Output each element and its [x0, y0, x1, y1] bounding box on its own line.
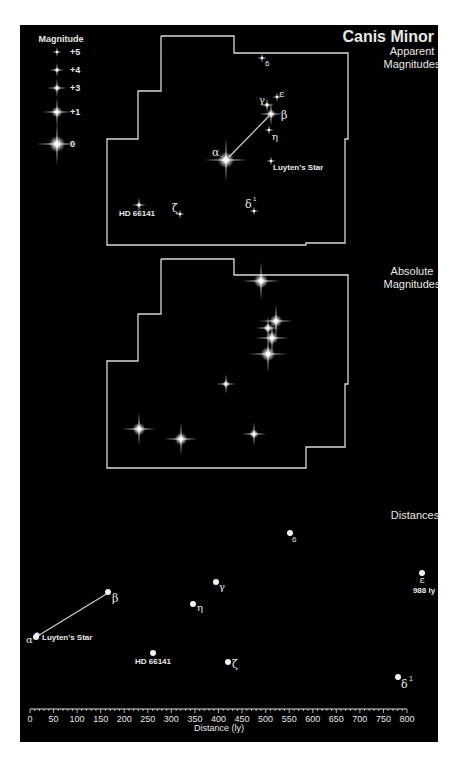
section-apparent-line1: Apparent — [390, 45, 435, 57]
axis-tick-label: 700 — [352, 714, 367, 724]
dist-label-alpha: α — [26, 634, 33, 645]
section-absolute-line2: Magnitudes — [384, 278, 441, 290]
label-luyten: Luyten's Star — [273, 163, 323, 172]
dist-label-luyten: Luyten's Star — [42, 633, 92, 642]
star-icon — [216, 374, 235, 393]
legend-star-icon — [52, 47, 62, 57]
dist-label-delta: δ — [401, 678, 408, 691]
dist-label-6: 6 — [292, 535, 297, 544]
distance-line — [36, 593, 108, 637]
legend-label: +5 — [70, 47, 80, 57]
label-eta: η — [272, 131, 278, 142]
absolute-stars — [122, 262, 293, 456]
dist-label-zeta: ζ — [232, 658, 238, 671]
label-gamma: γ — [259, 94, 265, 105]
dist-label-epsilon: ε — [419, 574, 424, 585]
label-alpha: α — [212, 146, 220, 159]
axis-tick-label: 800 — [399, 714, 414, 724]
magnitude-legend: Magnitude +5+4+3+10 — [35, 34, 83, 166]
dot-luyten — [35, 633, 40, 638]
legend-label: 0 — [70, 139, 75, 149]
star-icon — [242, 262, 280, 300]
axis-label: Distance (ly) — [194, 723, 244, 733]
dist-label-hd66141: HD 66141 — [135, 657, 172, 666]
dot-beta — [105, 589, 111, 595]
dist-label-beta: β — [112, 592, 118, 605]
label-hd66141: HD 66141 — [119, 209, 156, 218]
star-icon — [242, 422, 266, 446]
label-delta-sup: 1 — [253, 196, 257, 202]
axis-tick-label: 600 — [305, 714, 320, 724]
legend-star-icon — [43, 98, 72, 127]
dot-zeta — [225, 659, 231, 665]
canis-minor-diagram: Canis Minor Apparent Magnitudes Magnitud… — [0, 0, 458, 767]
axis-tick-label: 150 — [93, 714, 108, 724]
section-distances: Distances — [391, 509, 440, 521]
label-delta: δ — [245, 198, 252, 211]
dot-hd66141 — [150, 650, 156, 656]
distance-points — [33, 530, 425, 680]
dot-eta — [190, 601, 196, 607]
apparent-stars — [132, 53, 283, 219]
axis-tick-label: 100 — [70, 714, 85, 724]
dist-label-gamma: γ — [219, 581, 225, 592]
star-icon — [259, 304, 293, 338]
axis-tick-label: 50 — [49, 714, 59, 724]
dist-label-delta-sup: 1 — [409, 675, 413, 682]
legend-star-icon — [47, 78, 66, 97]
star-icon — [249, 335, 287, 373]
axis-tick-label: 650 — [329, 714, 344, 724]
axis-tick-label: 550 — [282, 714, 297, 724]
axis-tick-label: 300 — [164, 714, 179, 724]
axis-tick-label: 0 — [27, 714, 32, 724]
label-zeta: ζ — [172, 202, 178, 215]
legend-label: +1 — [70, 107, 80, 117]
legend-title: Magnitude — [39, 34, 84, 44]
asterism-line — [229, 116, 269, 157]
star-icon — [122, 412, 156, 446]
label-epsilon: ε — [279, 88, 284, 99]
axis-tick-label: 250 — [140, 714, 155, 724]
axis-tick-label: 750 — [376, 714, 391, 724]
chart-title: Canis Minor — [342, 28, 434, 45]
axis-tick-label: 500 — [258, 714, 273, 724]
dist-label-eta: η — [197, 602, 203, 613]
legend-label: +4 — [70, 65, 80, 75]
constellation-boundary-absolute — [107, 259, 348, 468]
label-6: 6 — [265, 59, 270, 68]
label-beta: β — [281, 109, 287, 122]
dist-label-988: 988 ly — [413, 586, 436, 595]
section-apparent-line2: Magnitudes — [384, 58, 441, 70]
axis-tick-label: 200 — [117, 714, 132, 724]
legend-star-icon — [50, 63, 64, 77]
distance-axis: 0501001502002503003504004505005506006507… — [27, 709, 414, 724]
section-absolute-line1: Absolute — [391, 265, 434, 277]
star-icon — [164, 422, 198, 456]
legend-label: +3 — [70, 83, 80, 93]
